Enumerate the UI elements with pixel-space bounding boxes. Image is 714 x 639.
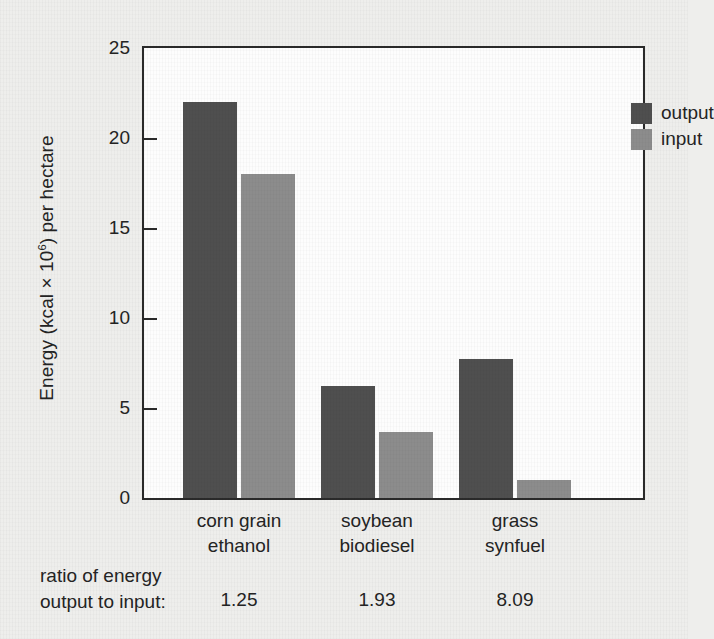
chart-legend: output input (631, 100, 714, 152)
ratio-caption-line1: ratio of energy (40, 565, 161, 586)
y-axis-tick-label: 25 (70, 37, 130, 59)
y-axis-title-before: Energy (kcal × 10 (36, 251, 57, 401)
y-axis-tick-label: 0 (70, 487, 130, 509)
y-axis-title: Energy (kcal × 106) per hectare (36, 58, 58, 478)
bar-output-0 (183, 102, 237, 498)
y-axis-tick-label: 20 (70, 127, 130, 149)
y-axis-tick-label: 15 (70, 217, 130, 239)
bar-output-2 (459, 359, 513, 498)
ratio-value-1: 1.93 (332, 589, 422, 611)
bar-output-1 (321, 386, 375, 498)
y-axis-tick (144, 318, 157, 320)
ratio-caption-line2: output to input: (40, 589, 166, 615)
legend-label-output: output (661, 102, 714, 124)
bar-input-1 (379, 432, 433, 498)
legend-item-input: input (631, 126, 714, 152)
bar-input-2 (517, 480, 571, 498)
x-axis-label-line1: corn grain (197, 510, 282, 531)
y-axis-tick (144, 408, 157, 410)
ratio-caption: ratio of energy output to input: (40, 563, 166, 615)
legend-swatch-output-icon (631, 103, 652, 124)
ratio-value-0: 1.25 (194, 589, 284, 611)
x-axis-label-line2: synfuel (425, 533, 605, 558)
x-axis-label-2: grasssynfuel (425, 508, 605, 558)
legend-item-output: output (631, 100, 714, 126)
y-axis-tick (144, 138, 157, 140)
ratio-value-2: 8.09 (470, 589, 560, 611)
bar-input-0 (241, 174, 295, 498)
y-axis-tick-label: 5 (70, 397, 130, 419)
legend-label-input: input (661, 128, 702, 150)
y-axis-title-after: ) per hectare (36, 135, 57, 244)
y-axis-title-exponent: 6 (36, 244, 48, 250)
legend-swatch-input-icon (631, 129, 652, 150)
y-axis-tick (144, 228, 157, 230)
plot-area: output input (142, 46, 645, 500)
y-axis-tick-label: 10 (70, 307, 130, 329)
x-axis-label-line1: grass (492, 510, 538, 531)
x-axis-label-line1: soybean (341, 510, 413, 531)
